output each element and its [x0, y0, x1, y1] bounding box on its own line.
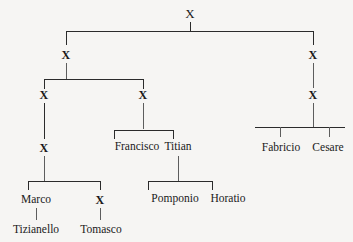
connector-gen2-left-down — [66, 63, 67, 79]
connector-gen5-x-drop — [100, 181, 101, 190]
connector-francisco-drop — [114, 130, 115, 139]
connector-pomponio-horatio-bar — [148, 181, 212, 182]
node-gen3-right-x: X — [309, 89, 318, 101]
node-gen2-right-x: X — [309, 49, 318, 61]
connector-gen2-left-bar — [44, 79, 144, 80]
connector-gen2-right-down — [313, 63, 314, 88]
node-pomponio: Pomponio — [151, 193, 198, 205]
connector-root-down — [190, 22, 191, 31]
connector-gen3-left-down — [44, 103, 45, 139]
connector-titian-drop — [173, 130, 174, 139]
connector-gen3-right-down — [313, 103, 314, 127]
node-titian: Titian — [164, 141, 191, 153]
node-francisco: Francisco — [115, 141, 160, 153]
connector-gen1-bar — [66, 31, 314, 32]
connector-gen2-right-drop — [313, 31, 314, 45]
connector-gen5-x-down — [100, 208, 101, 220]
connector-fabricio-cesare-bar — [255, 127, 345, 128]
connector-gen4-left-down — [44, 156, 45, 181]
node-gen2-left-x: X — [62, 49, 71, 61]
node-gen3-mid-x: X — [139, 89, 148, 101]
connector-marco-x-bar — [28, 181, 100, 182]
node-fabricio: Fabricio — [262, 142, 300, 154]
node-tizianello: Tizianello — [13, 224, 59, 236]
node-tomasco: Tomasco — [80, 224, 121, 236]
connector-pomponio-drop — [148, 181, 149, 190]
connector-marco-down — [36, 208, 37, 220]
node-cesare: Cesare — [312, 142, 343, 154]
node-marco: Marco — [21, 194, 51, 206]
connector-gen2-left-drop — [66, 31, 67, 45]
node-gen3-left-x: X — [40, 89, 49, 101]
node-gen4-left-x: X — [40, 142, 49, 154]
connector-francisco-titian-bar — [114, 130, 173, 131]
connector-gen3-mid-down — [143, 103, 144, 129]
connector-horatio-drop — [212, 181, 213, 190]
connector-marco-drop — [28, 181, 29, 190]
node-gen5-x: X — [96, 194, 105, 206]
node-horatio: Horatio — [210, 193, 245, 205]
connector-cesare-drop — [329, 127, 330, 137]
connector-titian-down — [178, 156, 179, 181]
genealogy-tree-figure: X X X X X X Francisco Titian Fabricio Ce… — [0, 0, 353, 242]
node-root-x: X — [185, 7, 194, 20]
connector-fabricio-drop — [280, 127, 281, 137]
